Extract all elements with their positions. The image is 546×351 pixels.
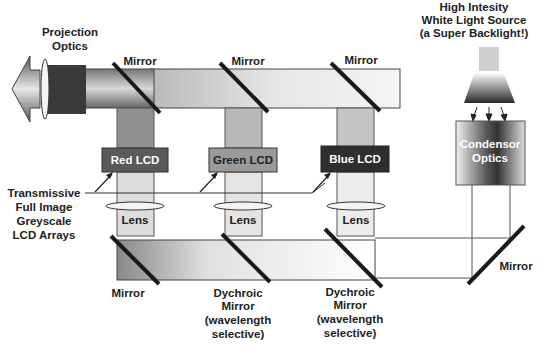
- projector-diagram: Red LCD Green LCD Blue LCD Lens Lens Len…: [0, 0, 546, 351]
- projection-lens-housing: [48, 65, 86, 114]
- mirror-bottom-left-label: Mirror: [111, 287, 145, 299]
- green-beam-upper: [225, 108, 262, 148]
- condensor-label-1: Condensor: [460, 138, 521, 150]
- projection-optics-label-1: Projection: [42, 26, 98, 38]
- light-source-label-1: High Intesity: [439, 1, 509, 13]
- dichroic-2-label-3: (wavelength: [317, 313, 383, 325]
- light-source-label-2: White Light Source: [422, 14, 527, 26]
- top-beam: [150, 69, 400, 108]
- green-lcd-label: Green LCD: [213, 154, 273, 166]
- red-lcd-label: Red LCD: [111, 154, 160, 166]
- condensor-label-2: Optics: [472, 152, 508, 164]
- light-source-reflector: [464, 74, 515, 103]
- light-source-label-3: (a Super Backlight!): [420, 27, 529, 39]
- projection-barrel: [84, 69, 154, 108]
- blue-beam-upper: [337, 108, 374, 148]
- mirror-right: [468, 226, 524, 284]
- lens-green: [214, 202, 272, 210]
- lens-red-label: Lens: [122, 214, 149, 226]
- dichroic-1-label-1: Dychroic: [213, 287, 263, 299]
- transmissive-label-3: Greyscale: [17, 215, 72, 227]
- transmissive-label-1: Transmissive: [8, 187, 81, 199]
- lens-green-label: Lens: [230, 214, 257, 226]
- light-source-bulb: [479, 47, 499, 71]
- transmissive-label-2: Full Image: [16, 201, 73, 213]
- projection-lens: [41, 59, 49, 119]
- dichroic-1-label-2: Mirror: [221, 300, 255, 312]
- lens-blue-label: Lens: [343, 214, 370, 226]
- dichroic-2-label-2: Mirror: [333, 299, 367, 311]
- mirror-top-1-label: Mirror: [123, 55, 157, 67]
- dichroic-1-label-4: selective): [212, 328, 265, 340]
- arrow-icon: [211, 172, 218, 179]
- mirror-top-2-label: Mirror: [231, 55, 265, 67]
- light-arrows-icon: [471, 107, 507, 121]
- dichroic-1-label-3: (wavelength: [205, 314, 271, 326]
- mirror-right-label: Mirror: [499, 260, 533, 272]
- blue-lcd-label: Blue LCD: [329, 153, 381, 165]
- lens-blue: [327, 202, 385, 210]
- projection-optics-label-2: Optics: [52, 40, 88, 52]
- dichroic-2-label-1: Dychroic: [325, 286, 375, 298]
- dichroic-2-label-4: selective): [324, 327, 377, 339]
- mirror-top-3-label: Mirror: [344, 54, 378, 66]
- lens-red: [106, 202, 164, 210]
- transmissive-label-4: LCD Arrays: [13, 229, 76, 241]
- red-beam-upper: [117, 108, 154, 148]
- projection-arrow-icon: [12, 56, 40, 122]
- arrow-icon: [324, 172, 331, 179]
- arrow-icon: [106, 172, 113, 179]
